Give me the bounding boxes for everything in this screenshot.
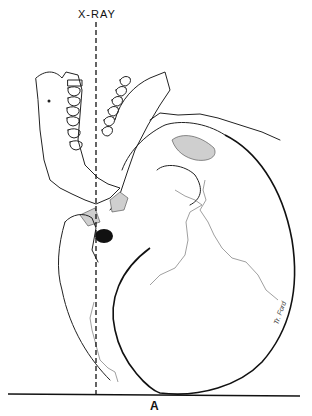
lambdoid-suture	[150, 205, 202, 285]
temporal-bone-shading	[172, 136, 215, 161]
zygomatic-arch	[150, 113, 280, 140]
skull-illustration: Tr. Ford	[0, 0, 312, 416]
mental-foramen	[48, 100, 51, 103]
cranium-outline	[113, 135, 295, 394]
upper-teeth	[102, 76, 131, 136]
artist-signature: Tr. Ford	[272, 299, 287, 325]
mandible-outline	[36, 72, 120, 204]
mastoid-process	[65, 215, 98, 262]
ear-canal	[95, 229, 113, 243]
occipital-base	[58, 222, 110, 380]
coronal-suture	[200, 180, 278, 300]
orbit-outline	[157, 165, 200, 205]
panel-label: A	[150, 399, 159, 413]
ground-line	[8, 394, 300, 396]
